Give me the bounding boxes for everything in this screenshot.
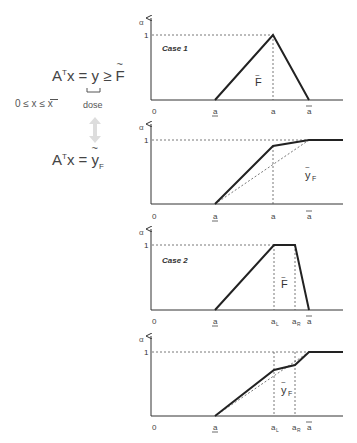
dashed-reference	[215, 140, 309, 204]
x-tick-a-lower: a	[213, 317, 218, 326]
x-tick-a: a	[271, 212, 276, 221]
case-label: Case 2	[162, 256, 188, 265]
svg-text:~: ~	[281, 378, 286, 387]
svg-text:L: L	[276, 321, 279, 327]
x-tick-a-lower: a	[213, 107, 218, 116]
x-tick-a-lower: a	[213, 212, 218, 221]
x-tick-0: 0	[152, 317, 157, 326]
svg-text:R: R	[297, 427, 301, 433]
y-tick-1: 1	[144, 241, 149, 250]
x-tick-a-upper: a	[307, 212, 312, 221]
y-tick-1: 1	[144, 31, 149, 40]
x-tick-a-upper: a	[307, 423, 312, 432]
x-tick-a-upper: a	[307, 107, 312, 116]
x-tick-a-upper: a	[307, 317, 312, 326]
y-tick-1: 1	[144, 348, 149, 357]
x-tick-a: a	[271, 107, 276, 116]
svg-text:F: F	[288, 390, 292, 397]
panel-case1-yF: α 1 y ~ F 0 a a a	[139, 123, 343, 221]
svg-text:~: ~	[305, 163, 310, 172]
panel-case2-F: α 1 Case 2 F ~ 0 a a L a R a	[139, 228, 343, 327]
x-tick-0: 0	[152, 423, 157, 432]
svg-text:~: ~	[281, 273, 286, 282]
panel-case2-yF: α 1 y ~ F 0 a a L a R a	[139, 335, 343, 433]
alpha-label: α	[139, 335, 144, 344]
curve-F	[215, 35, 309, 100]
x-tick-a-lower: a	[213, 423, 218, 432]
curve-yF	[215, 140, 343, 204]
curve-yF	[215, 352, 343, 416]
x-tick-0: 0	[152, 212, 157, 221]
alpha-label: α	[139, 18, 144, 27]
svg-text:~: ~	[255, 71, 260, 80]
diagram-panels: α 1 Case 1 F ~ 0 a a a α 1 y ~ F 0 a a a	[0, 0, 357, 443]
svg-text:R: R	[297, 321, 301, 327]
alpha-label: α	[139, 228, 144, 237]
case-label: Case 1	[162, 44, 188, 53]
x-tick-0: 0	[152, 107, 157, 116]
svg-text:F: F	[312, 175, 316, 182]
y-tick-1: 1	[144, 136, 149, 145]
svg-text:L: L	[276, 427, 279, 433]
panel-case1-F: α 1 Case 1 F ~ 0 a a a	[139, 18, 343, 116]
alpha-label: α	[139, 123, 144, 132]
